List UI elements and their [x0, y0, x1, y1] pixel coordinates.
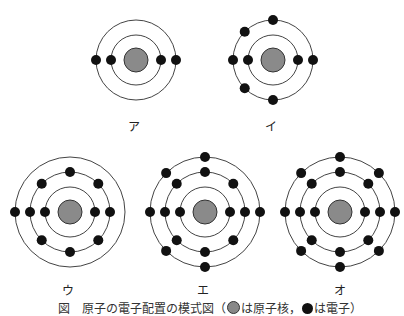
electron-icon	[65, 247, 75, 257]
electron-icon	[293, 55, 303, 65]
electron-icon	[374, 246, 384, 256]
electron-icon	[25, 207, 35, 217]
electron-icon	[90, 207, 100, 217]
electron-icon	[296, 168, 306, 178]
electron-icon	[335, 247, 345, 257]
nucleus-icon	[124, 48, 148, 72]
electron-icon	[171, 55, 181, 65]
electron-icon	[40, 207, 50, 217]
electron-icon	[255, 207, 265, 217]
nucleus-legend-icon	[227, 301, 240, 314]
electron-icon	[240, 83, 250, 93]
electron-icon	[145, 207, 155, 217]
electron-icon	[105, 207, 115, 217]
electron-icon	[307, 179, 317, 189]
electron-icon	[200, 167, 210, 177]
electron-legend-icon	[302, 303, 313, 314]
electron-icon	[240, 27, 250, 37]
electron-icon	[268, 95, 278, 105]
electron-icon	[10, 207, 20, 217]
figure-caption: 図 原子の電子配置の模式図（は原子核，は電子）	[58, 299, 362, 316]
electron-icon	[37, 235, 47, 245]
electron-icon	[335, 167, 345, 177]
electron-icon	[91, 55, 101, 65]
electron-icon	[296, 246, 306, 256]
electron-icon	[93, 179, 103, 189]
electron-icon	[106, 55, 116, 65]
electron-icon	[161, 246, 171, 256]
nucleus-icon	[58, 200, 82, 224]
atom-5	[280, 152, 400, 272]
atom-label: ア	[128, 117, 140, 134]
electron-icon	[310, 207, 320, 217]
atom-4	[145, 152, 265, 272]
electron-icon	[228, 179, 238, 189]
caption-nucleus-text: は原子核，	[241, 302, 301, 316]
atom-label: エ	[197, 281, 209, 298]
nucleus-icon	[328, 200, 352, 224]
electron-icon	[308, 55, 318, 65]
caption-prefix: 図 原子の電子配置の模式図（	[58, 302, 226, 316]
caption-electron-text: は電子）	[314, 302, 362, 316]
electron-icon	[335, 262, 345, 272]
electron-icon	[200, 152, 210, 162]
electron-icon	[268, 15, 278, 25]
electron-icon	[335, 152, 345, 162]
electron-icon	[200, 247, 210, 257]
electron-icon	[200, 262, 210, 272]
atom-2	[228, 15, 318, 105]
electron-icon	[307, 235, 317, 245]
atom-label: ウ	[62, 281, 74, 298]
electron-icon	[363, 179, 373, 189]
electron-icon	[160, 207, 170, 217]
electron-icon	[295, 207, 305, 217]
electron-icon	[228, 235, 238, 245]
electron-icon	[374, 168, 384, 178]
electron-icon	[93, 235, 103, 245]
electron-icon	[172, 235, 182, 245]
electron-icon	[37, 179, 47, 189]
electron-icon	[172, 179, 182, 189]
electron-icon	[363, 235, 373, 245]
electron-icon	[243, 55, 253, 65]
electron-icon	[360, 207, 370, 217]
atom-label: オ	[334, 281, 346, 298]
nucleus-icon	[261, 48, 285, 72]
electron-icon	[240, 207, 250, 217]
nucleus-icon	[193, 200, 217, 224]
electron-icon	[375, 207, 385, 217]
atom-1	[91, 20, 181, 100]
electron-icon	[161, 168, 171, 178]
atom-label: イ	[265, 117, 277, 134]
electron-icon	[65, 167, 75, 177]
electron-icon	[280, 207, 290, 217]
atom-3	[10, 157, 125, 267]
electron-icon	[390, 207, 400, 217]
electron-icon	[228, 55, 238, 65]
electron-icon	[175, 207, 185, 217]
electron-icon	[225, 207, 235, 217]
electron-icon	[156, 55, 166, 65]
